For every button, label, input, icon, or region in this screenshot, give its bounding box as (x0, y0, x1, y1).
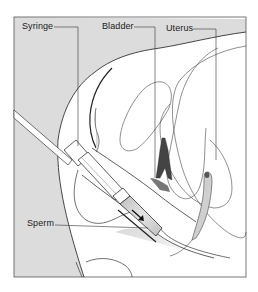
label-syringe: Syringe (22, 21, 53, 31)
labia (95, 108, 99, 152)
label-bladder: Bladder (102, 21, 134, 31)
insemination-diagram: Syringe Bladder Uterus Sperm (0, 0, 258, 292)
pubic-edge (90, 68, 112, 148)
buttock-curve (86, 259, 132, 277)
rectum (192, 172, 212, 240)
label-sperm: Sperm (27, 218, 54, 228)
label-uterus: Uterus (166, 23, 193, 33)
uterus-wall (160, 104, 232, 208)
cervix-shadow (150, 178, 170, 192)
rectum-opening (205, 172, 210, 178)
abdominal-wall (172, 46, 246, 238)
uterus-leader (193, 29, 216, 160)
cervix-canal (156, 138, 172, 180)
anatomy-illustration (0, 0, 258, 292)
